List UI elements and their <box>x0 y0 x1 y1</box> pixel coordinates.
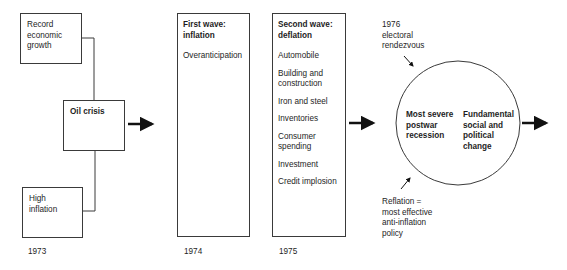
second-wave-content: Second wave:deflation Automobile Buildin… <box>278 20 346 195</box>
second-wave-title: Second wave:deflation <box>278 20 346 41</box>
second-wave-item: Consumerspending <box>278 132 346 153</box>
second-wave-item: Building andconstruction <box>278 69 346 90</box>
second-wave-item: Automobile <box>278 51 346 62</box>
year-1973: 1973 <box>28 247 46 256</box>
oil-crisis-box: Oil crisis <box>63 100 125 151</box>
first-wave-item: Overanticipation <box>183 51 249 62</box>
circle-right-text: Fundamentalsocial andpoliticalchange <box>463 110 514 152</box>
record-growth-label: Recordeconomicgrowth <box>27 20 62 52</box>
electoral-annotation: 1976electoralrendezvous <box>382 20 424 52</box>
arrow-reflation <box>401 178 410 189</box>
year-1975: 1975 <box>279 247 297 256</box>
second-wave-item: Credit implosion <box>278 177 346 188</box>
second-wave-item: Investment <box>278 160 346 171</box>
record-growth-box: Recordeconomicgrowth <box>20 13 82 64</box>
arrow-electoral <box>404 56 413 66</box>
year-1974: 1974 <box>184 247 202 256</box>
second-wave-box: Second wave:deflation Automobile Buildin… <box>272 13 346 237</box>
high-inflation-connector <box>82 150 95 211</box>
second-wave-item: Inventories <box>278 114 346 125</box>
reflation-annotation: Reflation =most effectiveanti-inflationp… <box>382 197 432 239</box>
second-wave-item: Iron and steel <box>278 97 346 108</box>
oil-crisis-label: Oil crisis <box>70 107 105 118</box>
high-inflation-box: Highinflation <box>22 187 83 238</box>
first-wave-content: First wave:inflation Overanticipation <box>183 20 249 69</box>
circle-left-text: Most severepostwarrecession <box>406 110 453 142</box>
high-inflation-label: Highinflation <box>29 194 57 215</box>
first-wave-title: First wave:inflation <box>183 20 249 41</box>
first-wave-box: First wave:inflation Overanticipation <box>177 13 250 237</box>
record-growth-connector <box>81 38 94 100</box>
